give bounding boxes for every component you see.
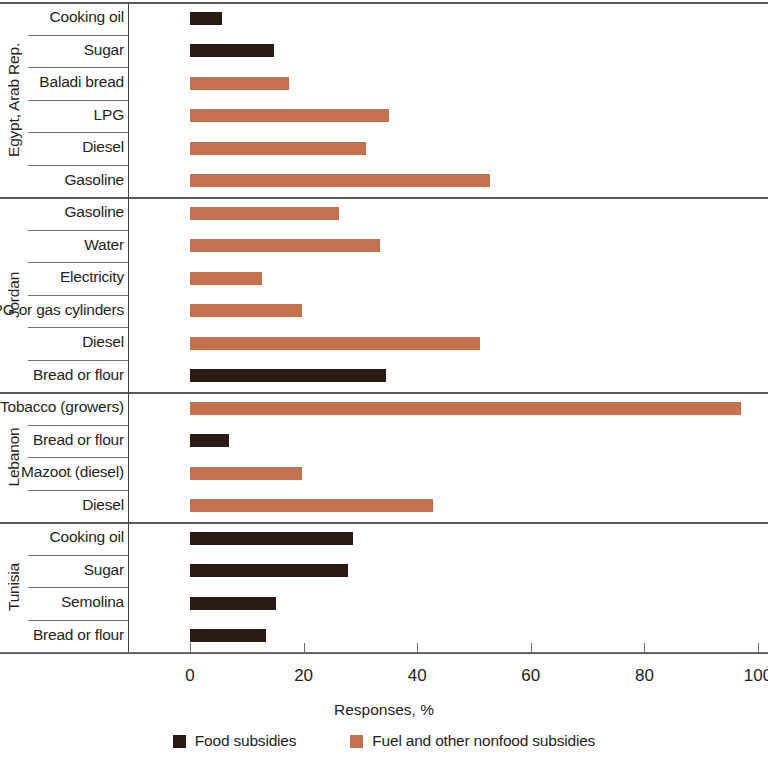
bar (190, 304, 302, 317)
bar (190, 369, 386, 382)
x-axis-tick (304, 643, 305, 652)
legend-swatch (173, 735, 186, 748)
x-axis-tick-label: 60 (521, 666, 540, 686)
legend-item[interactable]: Fuel and other nonfood subsidies (350, 732, 595, 750)
bar (190, 337, 480, 350)
country-group-jordan: Jordan (0, 197, 28, 392)
category-label: Electricity (60, 269, 124, 285)
category-label: Bread or flour (33, 432, 124, 448)
row-separator (28, 67, 128, 68)
row-separator (28, 555, 128, 556)
category-label: Semolina (61, 594, 124, 610)
legend-swatch (350, 735, 363, 748)
bar (190, 532, 353, 545)
bar (190, 207, 339, 220)
category-label: Diesel (82, 334, 124, 350)
category-label: Tobacco (growers) (0, 399, 124, 415)
bar (190, 239, 380, 252)
x-axis-tick-label: 80 (635, 666, 654, 686)
category-label: Bread or flour (33, 367, 124, 383)
x-axis-title: Responses, % (0, 701, 768, 719)
category-label: Diesel (82, 497, 124, 513)
bar (190, 142, 366, 155)
row-separator (28, 490, 128, 491)
chart-legend: Food subsidiesFuel and other nonfood sub… (0, 732, 768, 750)
subsidies-bar-chart: Egypt, Arab Rep.Cooking oilSugarBaladi b… (0, 0, 768, 763)
row-separator (28, 295, 128, 296)
country-group-egypt-arab-rep: Egypt, Arab Rep. (0, 2, 28, 197)
legend-label: Food subsidies (195, 732, 296, 750)
row-separator (28, 35, 128, 36)
legend-label: Fuel and other nonfood subsidies (372, 732, 595, 750)
category-axis-segment (128, 2, 129, 197)
country-group-separator (0, 392, 768, 394)
category-label: Bread or flour (33, 627, 124, 643)
category-label: Water (84, 237, 124, 253)
x-axis-tick (758, 643, 759, 652)
legend-item[interactable]: Food subsidies (173, 732, 296, 750)
row-separator (28, 425, 128, 426)
x-axis-tick (531, 643, 532, 652)
category-axis-segment (128, 522, 129, 652)
category-label: Sugar (84, 42, 124, 58)
category-axis-segment (128, 392, 129, 522)
x-axis-tick-label: 100 (744, 666, 768, 686)
row-separator (28, 457, 128, 458)
category-label: Mazoot (diesel) (21, 464, 124, 480)
row-separator (28, 132, 128, 133)
x-axis-line (0, 652, 768, 653)
category-label: LPG (94, 107, 124, 123)
country-group-separator (0, 522, 768, 524)
bar (190, 174, 490, 187)
country-group-label: Tunisia (5, 563, 23, 611)
category-label: Baladi bread (39, 74, 124, 90)
country-group-separator (0, 197, 768, 199)
x-axis-tick (644, 643, 645, 652)
x-axis-tick-label: 0 (185, 666, 194, 686)
category-label: Sugar (84, 562, 124, 578)
bar (190, 12, 222, 25)
category-label: LPG or gas cylinders (0, 302, 124, 318)
plot-area: Egypt, Arab Rep.Cooking oilSugarBaladi b… (0, 0, 768, 653)
bar (190, 597, 276, 610)
category-label: Gasoline (64, 172, 124, 188)
category-label: Cooking oil (50, 9, 124, 25)
x-axis-tick-label: 20 (294, 666, 313, 686)
x-axis-tick-label: 40 (408, 666, 427, 686)
bar (190, 629, 266, 642)
row-separator (28, 327, 128, 328)
row-separator (28, 100, 128, 101)
chart-top-border (0, 2, 768, 4)
bar (190, 499, 433, 512)
category-axis-segment (128, 197, 129, 392)
bar (190, 564, 348, 577)
row-separator (28, 620, 128, 621)
row-separator (28, 165, 128, 166)
row-separator (28, 587, 128, 588)
category-label: Gasoline (64, 204, 124, 220)
country-group-tunisia: Tunisia (0, 522, 28, 652)
bar (190, 44, 274, 57)
row-separator (28, 360, 128, 361)
row-separator (28, 262, 128, 263)
bar (190, 109, 389, 122)
category-label: Diesel (82, 139, 124, 155)
bar (190, 77, 289, 90)
bar (190, 434, 229, 447)
bar (190, 272, 262, 285)
country-group-label: Egypt, Arab Rep. (5, 43, 23, 157)
x-axis-tick (417, 643, 418, 652)
x-axis-tick (190, 643, 191, 652)
category-label: Cooking oil (50, 529, 124, 545)
bar (190, 467, 302, 480)
row-separator (28, 230, 128, 231)
bar (190, 402, 741, 415)
